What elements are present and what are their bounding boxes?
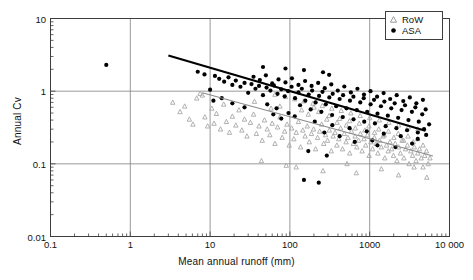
y-tick-label: 1: [41, 86, 46, 97]
chart-figure: 0.1110100100010 000 0.010.1110 Mean annu…: [0, 0, 473, 280]
legend-label-asa: ASA: [402, 25, 421, 36]
x-tick-label: 10 000: [435, 239, 464, 250]
chart-legend: RoW ASA: [385, 11, 443, 40]
x-tick-label: 100: [282, 239, 298, 250]
triangle-icon: [389, 16, 398, 23]
y-tick-label: 0.01: [28, 231, 47, 242]
legend-item-asa: ASA: [389, 25, 439, 36]
x-tick-label: 1000: [359, 239, 380, 250]
x-tick-label: 1: [128, 239, 133, 250]
circle-icon: [389, 27, 398, 34]
x-axis-title: Mean annual runoff (mm): [0, 256, 473, 267]
y-axis-title-wrapper: Annual Cv: [7, 56, 25, 186]
plot-frame: [51, 19, 450, 237]
y-axis-title: Annual Cv: [12, 97, 23, 145]
grid-lines: [51, 19, 450, 237]
legend-item-row: RoW: [389, 14, 439, 25]
scatter-plot: [0, 0, 473, 280]
y-tick-label: 10: [35, 13, 46, 24]
axis-ticks: [51, 19, 450, 237]
y-tick-label: 0.1: [33, 158, 46, 169]
legend-label-row: RoW: [402, 14, 423, 25]
x-tick-label: 10: [205, 239, 216, 250]
data-points: [104, 63, 432, 185]
